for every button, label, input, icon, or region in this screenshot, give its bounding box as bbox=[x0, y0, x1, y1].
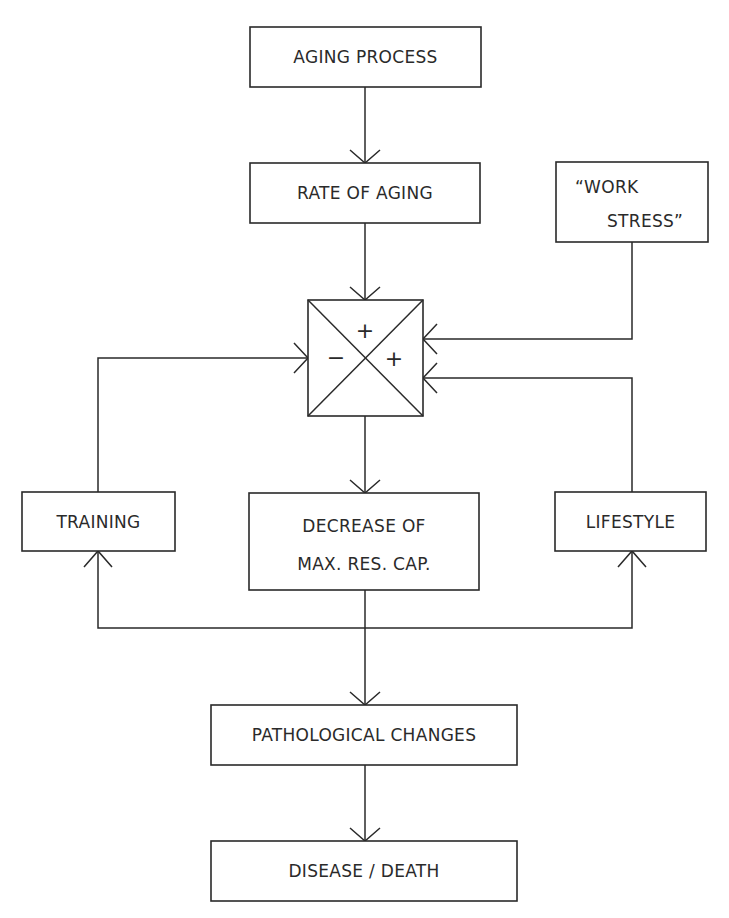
node-label: LIFESTYLE bbox=[586, 512, 675, 532]
node-label: TRAINING bbox=[55, 512, 140, 532]
node-label-line-2: STRESS” bbox=[607, 211, 683, 231]
summing-junction: + + − bbox=[308, 300, 423, 416]
plus-sign-top: + bbox=[356, 318, 374, 343]
node-label-line-2: MAX. RES. CAP. bbox=[297, 554, 431, 574]
node-aging-process: AGING PROCESS bbox=[250, 27, 481, 87]
node-label: AGING PROCESS bbox=[293, 47, 437, 67]
minus-sign-left: − bbox=[327, 345, 345, 370]
node-label: PATHOLOGICAL CHANGES bbox=[252, 725, 477, 745]
node-rate-of-aging: RATE OF AGING bbox=[250, 163, 480, 223]
plus-sign-right: + bbox=[385, 346, 403, 371]
edge-training-to-junction bbox=[98, 358, 308, 492]
node-label: DISEASE / DEATH bbox=[288, 861, 439, 881]
node-lifestyle: LIFESTYLE bbox=[555, 492, 706, 551]
node-label-line-1: “WORK bbox=[575, 177, 639, 197]
node-decrease-max-res-cap: DECREASE OF MAX. RES. CAP. bbox=[249, 493, 479, 590]
node-label: RATE OF AGING bbox=[297, 183, 433, 203]
node-work-stress: “WORK STRESS” bbox=[556, 162, 708, 242]
edge-workstress-to-junction bbox=[423, 242, 632, 339]
node-label-line-1: DECREASE OF bbox=[302, 516, 425, 536]
aging-flowchart: AGING PROCESS RATE OF AGING “WORK STRESS… bbox=[0, 0, 729, 918]
node-pathological-changes: PATHOLOGICAL CHANGES bbox=[211, 705, 517, 765]
node-disease-death: DISEASE / DEATH bbox=[211, 841, 517, 901]
edge-lifestyle-to-junction bbox=[423, 378, 632, 492]
node-training: TRAINING bbox=[22, 492, 175, 551]
